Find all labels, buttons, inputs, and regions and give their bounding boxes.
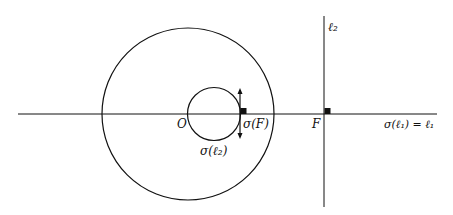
label-F: F	[311, 117, 321, 131]
label-sigma-l1-eq-l1: σ(ℓ₁) = ℓ₁	[384, 118, 434, 131]
label-sigma-l2: σ(ℓ₂)	[200, 144, 228, 158]
label-sigma-F: σ(F)	[243, 117, 269, 131]
label-l2: ℓ₂	[328, 20, 338, 34]
label-origin: O	[177, 117, 187, 131]
right-angle-marker-sigma-F	[241, 108, 247, 114]
right-angle-marker-F	[325, 108, 331, 114]
inversion-diagram: O σ(F) σ(ℓ₂) F ℓ₂ σ(ℓ₁) = ℓ₁	[0, 0, 453, 215]
